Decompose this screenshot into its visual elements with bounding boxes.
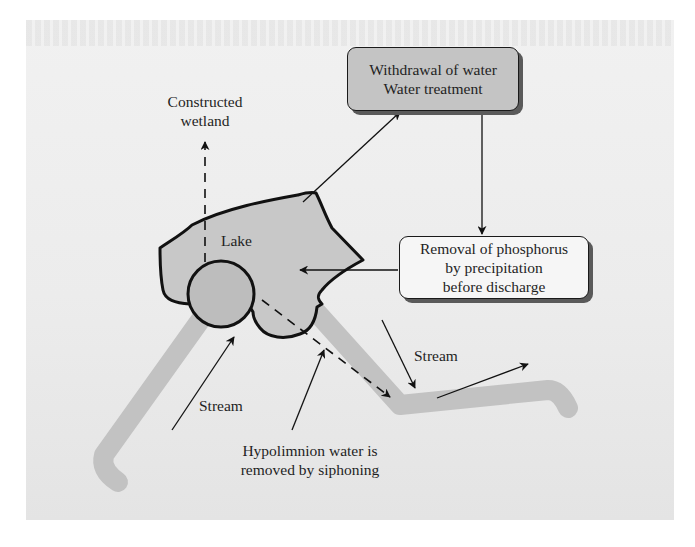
withdrawal-line1: Withdrawal of water — [369, 60, 497, 79]
removal-line1: Removal of phosphorus — [420, 239, 568, 258]
constructed-wetland-label: Constructed wetland — [140, 92, 270, 130]
removal-line2: by precipitation — [445, 258, 543, 277]
withdrawal-line2: Water treatment — [383, 79, 482, 98]
arrow-hypolimnion — [292, 350, 324, 430]
stream-inflow-label: Stream — [199, 396, 243, 415]
arrow-lake-to-withdrawal — [303, 112, 400, 202]
hypolimnion-label: Hypolimnion water is removed by siphonin… — [220, 441, 400, 479]
hypolimnion-line2: removed by siphoning — [220, 460, 400, 479]
stream-outflow-label: Stream — [414, 346, 458, 365]
hypolimnion-line1: Hypolimnion water is — [220, 441, 400, 460]
lake-basin-circle — [188, 261, 254, 327]
wetland-line1: Constructed — [140, 92, 270, 111]
wetland-line2: wetland — [140, 111, 270, 130]
inflow-stream — [103, 315, 204, 482]
lake-label: Lake — [221, 231, 252, 250]
phosphorus-removal-box: Removal of phosphorus by precipitation b… — [399, 236, 589, 299]
withdrawal-treatment-box: Withdrawal of water Water treatment — [347, 47, 519, 111]
removal-line3: before discharge — [443, 277, 546, 296]
